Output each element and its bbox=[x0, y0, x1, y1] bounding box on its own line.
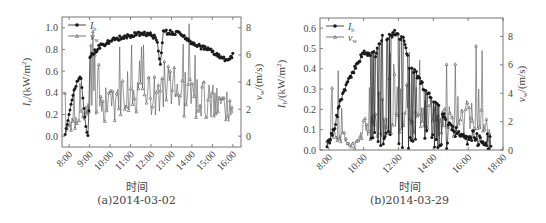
y-right-tick-label: 6 bbox=[246, 49, 251, 60]
y-left-tick-label: 0.4 bbox=[304, 63, 317, 74]
legend-vw-label: vw bbox=[90, 31, 99, 43]
chart-caption-a: (a)2014-03-02 bbox=[0, 194, 273, 207]
x-tick-label: 14:00 bbox=[173, 149, 197, 173]
y-right-axis-label: vw/(m/s) bbox=[515, 66, 529, 103]
y-left-tick-label: 0.3 bbox=[304, 84, 317, 95]
y-left-axis-label: Ib/(kW/m2) bbox=[20, 57, 34, 107]
y-left-tick-label: 0.2 bbox=[46, 109, 59, 120]
x-tick-label: 10:00 bbox=[345, 152, 369, 176]
x-tick-label: 12:00 bbox=[133, 149, 157, 173]
x-tick-label: 10:00 bbox=[92, 149, 116, 173]
plot-area: 0.00.10.20.30.40.50.6024688:0010:0012:00… bbox=[275, 18, 529, 176]
chart-panel-a: 0.00.20.40.60.81.0024688:009:0010:0011:0… bbox=[0, 0, 273, 223]
y-left-tick-label: 0.6 bbox=[46, 66, 59, 77]
x-tick-label: 13:00 bbox=[153, 149, 177, 173]
y-left-tick-label: 0.1 bbox=[304, 124, 317, 135]
x-tick-label: 11:00 bbox=[112, 149, 136, 173]
y-right-tick-label: 6 bbox=[508, 59, 513, 70]
legend-ib-marker-icon bbox=[75, 23, 79, 27]
y-right-axis-label: vw/(m/s) bbox=[252, 64, 266, 101]
x-tick-label: 16:00 bbox=[450, 152, 474, 176]
y-right-tick-label: 0 bbox=[246, 131, 251, 142]
y-left-tick-label: 0.5 bbox=[304, 43, 317, 54]
y-right-tick-label: 2 bbox=[246, 104, 251, 115]
legend: Ibvw bbox=[326, 21, 357, 44]
y-left-tick-label: 0.4 bbox=[46, 87, 59, 98]
x-tick-label: 18:00 bbox=[485, 152, 509, 176]
x-tick-label: 16:00 bbox=[214, 149, 238, 173]
x-tick-label: 8:00 bbox=[54, 149, 74, 169]
chart-panel-b: 0.00.10.20.30.40.50.6024688:0010:0012:00… bbox=[273, 0, 546, 223]
x-tick-label: 8:00 bbox=[314, 152, 334, 172]
y-right-tick-label: 4 bbox=[508, 88, 513, 99]
ib-line bbox=[327, 30, 491, 149]
x-tick-label: 12:00 bbox=[380, 152, 404, 176]
y-right-tick-label: 4 bbox=[246, 77, 251, 88]
data-series bbox=[326, 29, 493, 151]
y-left-tick-label: 0.2 bbox=[304, 104, 317, 115]
y-right-tick-label: 8 bbox=[246, 22, 251, 33]
x-tick-label: 14:00 bbox=[415, 152, 439, 176]
legend-ib-marker-icon bbox=[333, 24, 337, 28]
y-right-tick-label: 0 bbox=[508, 145, 513, 156]
y-left-tick-label: 0.6 bbox=[304, 23, 317, 34]
y-left-tick-label: 0.0 bbox=[304, 145, 317, 156]
x-axis-label-b: 时间 bbox=[273, 178, 546, 194]
legend-vw-marker-icon bbox=[334, 36, 337, 39]
legend-vw-label: vw bbox=[348, 32, 357, 44]
x-tick-label: 15:00 bbox=[194, 149, 218, 173]
legend-vw-marker-icon bbox=[76, 35, 79, 38]
y-left-tick-label: 1.0 bbox=[46, 22, 59, 33]
chart-caption-b: (b)2014-03-29 bbox=[273, 194, 546, 207]
plot-area: 0.00.20.40.60.81.0024688:009:0010:0011:0… bbox=[20, 17, 266, 173]
y-left-tick-label: 0.0 bbox=[46, 131, 59, 142]
y-left-tick-label: 0.8 bbox=[46, 44, 59, 55]
y-right-tick-label: 8 bbox=[508, 31, 513, 42]
y-right-tick-label: 2 bbox=[508, 116, 513, 127]
y-left-axis-label: Ib/(kW/m2) bbox=[275, 59, 289, 109]
x-axis-label-a: 时间 bbox=[0, 178, 273, 194]
legend: Ibvw bbox=[68, 20, 99, 43]
